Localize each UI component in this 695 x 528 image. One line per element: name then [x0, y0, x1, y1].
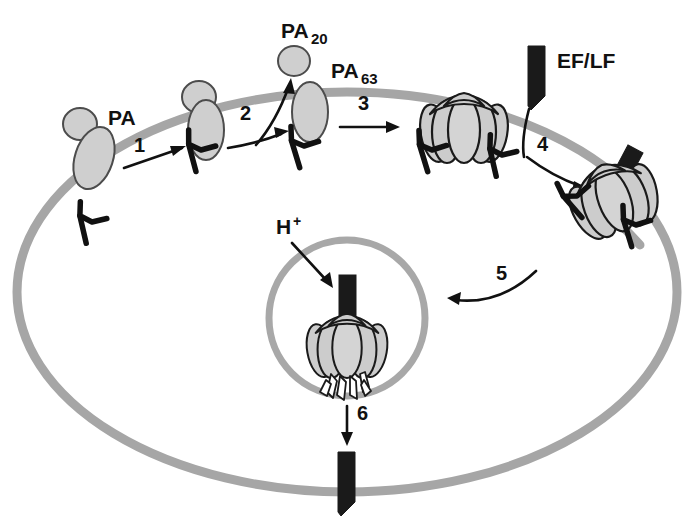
proton-label-base: H [276, 215, 291, 238]
pa63-label-sub: 63 [361, 70, 378, 87]
pa-label: PA [108, 106, 136, 129]
step-6-number: 6 [357, 402, 368, 424]
pathway-canvas: PA 1 PA 20 [0, 0, 695, 528]
pa63-monomer [292, 82, 328, 142]
eflf-label: EF/LF [557, 49, 615, 72]
pa63-label-group: PA 63 [331, 59, 378, 87]
heptamer-pore [303, 314, 391, 379]
eflf-free [528, 46, 545, 110]
receptor-unbound-left [73, 202, 109, 246]
step-5-number: 5 [496, 262, 507, 284]
proton-label-sup: + [293, 213, 301, 229]
step-2-arrow-right [228, 127, 289, 148]
step-1-number: 1 [134, 134, 145, 156]
pa20-label-sub: 20 [311, 30, 328, 47]
step-3-number: 3 [358, 92, 369, 114]
step-4-number: 4 [537, 133, 549, 155]
eflf-cytosolic [338, 452, 355, 516]
anthrax-toxin-pathway-diagram: PA 1 PA 20 [0, 0, 695, 528]
proton-label-group: H + [276, 213, 301, 238]
pa63-label-base: PA [331, 59, 359, 82]
pa20-released [278, 46, 310, 76]
step-6-arrow [341, 406, 353, 446]
step-3-arrow [340, 121, 400, 133]
pa20-label-base: PA [281, 19, 309, 42]
step-5-arrow [447, 271, 536, 305]
pa20-label-group: PA 20 [281, 19, 328, 47]
step-2-number: 2 [240, 102, 251, 124]
